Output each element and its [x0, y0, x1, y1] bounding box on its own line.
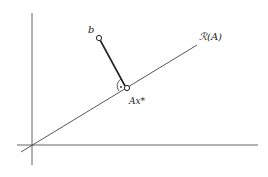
label-range: ℛ(A) [199, 31, 222, 42]
label-b: b [88, 24, 94, 35]
point-ax-star [124, 85, 129, 90]
right-angle-dot [120, 86, 122, 88]
point-b [96, 35, 101, 40]
label-ax-star: Ax* [128, 96, 146, 106]
right-angle-marker [117, 79, 121, 91]
range-line [21, 45, 197, 152]
residual-segment [99, 38, 125, 86]
projection-diagram: b ℛ(A) Ax* [0, 0, 268, 177]
